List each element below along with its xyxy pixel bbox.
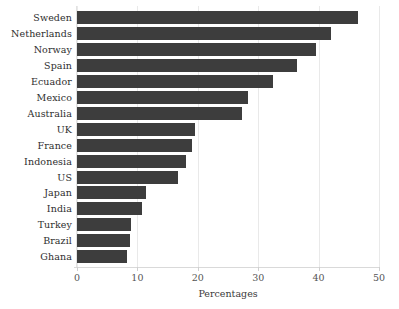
plot-area [77,6,379,267]
bar-row [77,218,379,231]
category-label: US [0,171,72,184]
x-axis-line [74,267,380,268]
category-label: Japan [0,186,72,199]
bar-row [77,107,379,120]
category-label: France [0,139,72,152]
x-axis-tick-label: 0 [62,272,92,284]
bar-row [77,202,379,215]
x-axis-tick-mark [137,267,138,271]
bar-row [77,186,379,199]
bar [77,171,178,184]
category-label: Norway [0,43,72,56]
bar [77,75,273,88]
bar [77,155,186,168]
category-label: Spain [0,59,72,72]
bar [77,250,127,263]
category-label: UK [0,123,72,136]
x-axis-tick-label: 40 [304,272,334,284]
bar-row [77,27,379,40]
bar-row [77,59,379,72]
bar-row [77,11,379,24]
category-label: Brazil [0,234,72,247]
category-label: Netherlands [0,27,72,40]
x-axis-tick-mark [258,267,259,271]
x-axis-tick-mark [319,267,320,271]
bar [77,234,130,247]
category-label: Australia [0,107,72,120]
category-label: Mexico [0,91,72,104]
bar-chart: SwedenNetherlandsNorwaySpainEcuadorMexic… [0,0,399,309]
x-axis-tick-label: 50 [364,272,394,284]
bar-row [77,139,379,152]
bar [77,11,358,24]
x-axis-tick-mark [77,267,78,271]
x-axis-title: Percentages [77,288,379,300]
bar [77,218,131,231]
category-label: Ecuador [0,75,72,88]
bar [77,202,142,215]
bar-row [77,123,379,136]
x-axis-tick-mark [198,267,199,271]
bar [77,186,146,199]
category-label: India [0,202,72,215]
bar [77,91,248,104]
bar-row [77,250,379,263]
category-axis-labels: SwedenNetherlandsNorwaySpainEcuadorMexic… [0,6,72,267]
bar [77,123,195,136]
x-axis-tick-mark [379,267,380,271]
category-label: Ghana [0,250,72,263]
bar-row [77,155,379,168]
bar-row [77,43,379,56]
bar [77,27,331,40]
category-label: Sweden [0,11,72,24]
x-axis-tick-label: 10 [122,272,152,284]
bar [77,43,316,56]
x-axis-tick-label: 20 [183,272,213,284]
bar-row [77,171,379,184]
x-axis-tick-label: 30 [243,272,273,284]
bar-row [77,234,379,247]
bar [77,139,192,152]
bar [77,59,297,72]
bar [77,107,242,120]
category-label: Indonesia [0,155,72,168]
category-label: Turkey [0,218,72,231]
bar-row [77,75,379,88]
gridline [379,6,380,267]
bar-row [77,91,379,104]
